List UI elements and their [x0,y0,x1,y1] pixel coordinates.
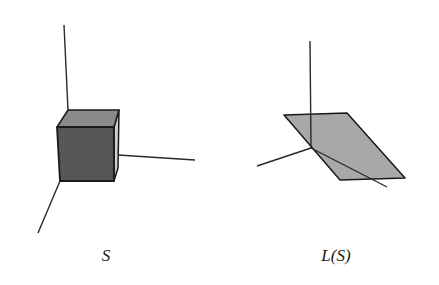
vertical-axis [310,41,311,148]
y-axis [64,25,68,110]
label-s: S [102,246,111,266]
cube-front-face [57,127,114,181]
transformed-figure [257,41,405,187]
parallelogram [284,113,405,180]
x-axis [118,155,195,160]
z-axis [38,181,60,233]
cube-figure [38,25,195,233]
label-l-of-s: L(S) [321,246,350,266]
cube-top-face [57,110,119,127]
left-axis [257,148,311,166]
diagram-canvas [0,0,439,285]
